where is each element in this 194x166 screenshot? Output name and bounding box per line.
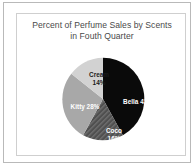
chart-title-line-1: Percent of Perfume Sales by Scents	[32, 20, 172, 30]
pie-chart	[59, 55, 147, 143]
pie-svg	[59, 55, 147, 143]
chart-title: Percent of Perfume Sales by Scents in Fo…	[17, 20, 187, 42]
chart-plot-area: Percent of Perfume Sales by Scents in Fo…	[16, 13, 186, 156]
chart-title-line-2: in Fouth Quarter	[17, 31, 187, 42]
chart-screenshot: Percent of Perfume Sales by Scents in Fo…	[0, 0, 194, 166]
outer-frame: Percent of Perfume Sales by Scents in Fo…	[3, 2, 191, 163]
